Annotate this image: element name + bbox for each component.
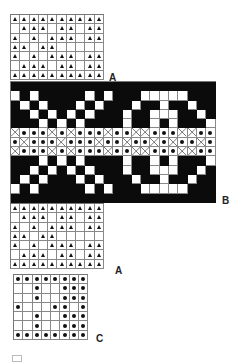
triangle-icon [57,250,65,258]
dot-icon [150,128,158,136]
dot-cell [60,294,69,303]
triangle-icon [11,43,19,51]
black-cell [11,156,20,165]
triangle-cell [67,52,76,61]
white-cell [141,91,150,100]
triangle-cell [57,204,66,213]
empty-cell [67,232,76,241]
dot-icon [39,138,47,146]
dot-icon [33,321,41,329]
black-cell [178,194,187,203]
dot-cell [76,128,85,137]
cross-cell [178,128,187,137]
white-cell [48,166,57,175]
triangle-icon [30,204,38,212]
triangle-cell [57,241,66,250]
triangle-cell [39,213,48,222]
black-cell [95,166,104,175]
white-cell [160,101,169,110]
dot-cell [113,147,122,156]
triangle-cell [76,204,85,213]
white-cell [178,91,187,100]
empty-cell [95,232,104,241]
dot-cell [20,147,29,156]
triangle-icon [20,24,28,32]
triangle-icon [20,204,28,212]
section-label-b: B [222,195,229,206]
black-cell [48,82,57,91]
black-cell [113,110,122,119]
triangle-cell [39,24,48,33]
empty-cell [76,34,85,43]
triangle-icon [39,232,47,240]
triangle-cell [30,15,39,24]
dot-icon [23,275,31,283]
black-cell [206,175,215,184]
triangle-icon [30,250,38,258]
triangle-icon [67,223,75,231]
black-cell [197,194,206,203]
black-cell [30,156,39,165]
dot-icon [33,331,41,339]
dot-cell [113,138,122,147]
empty-cell [23,312,32,321]
black-cell [67,119,76,128]
cross-cell [57,138,66,147]
black-cell [57,82,66,91]
cross-icon [197,138,205,146]
empty-cell [76,241,85,250]
dot-icon [14,275,22,283]
black-cell [30,101,39,110]
triangle-cell [48,232,57,241]
black-cell [132,166,141,175]
dot-cell [70,331,79,340]
cross-icon [178,147,186,155]
empty-cell [23,321,32,330]
triangle-cell [85,24,94,33]
dot-cell [79,284,88,293]
dot-icon [57,128,65,136]
triangle-cell [11,260,20,269]
triangle-cell [39,260,48,269]
black-cell [178,166,187,175]
triangle-icon [67,260,75,268]
black-cell [141,119,150,128]
cross-cell [20,138,29,147]
dot-icon [11,138,19,146]
triangle-icon [67,250,75,258]
black-cell [206,194,215,203]
empty-cell [14,321,23,330]
dot-icon [60,275,68,283]
black-cell [67,156,76,165]
black-cell [57,184,66,193]
black-cell [85,82,94,91]
triangle-cell [85,52,94,61]
white-cell [123,166,132,175]
black-cell [132,119,141,128]
dot-icon [160,138,168,146]
black-cell [57,194,66,203]
empty-cell [23,284,32,293]
triangle-cell [95,52,104,61]
white-cell [169,166,178,175]
black-cell [141,82,150,91]
triangle-icon [57,241,65,249]
dot-icon [30,147,38,155]
triangle-icon [67,52,75,60]
black-cell [188,82,197,91]
triangle-cell [85,204,94,213]
cross-cell [188,128,197,137]
dot-icon [70,284,78,292]
white-cell [123,119,132,128]
black-cell [188,194,197,203]
black-cell [11,166,20,175]
white-cell [132,101,141,110]
black-cell [48,91,57,100]
black-cell [30,119,39,128]
white-cell [150,110,159,119]
black-cell [39,184,48,193]
dot-icon [39,128,47,136]
section-label-a: A [115,265,122,276]
dot-cell [95,128,104,137]
dot-icon [85,138,93,146]
